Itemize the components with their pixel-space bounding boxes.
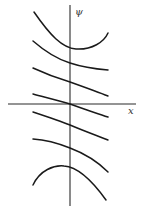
phase-diagram: ψ x — [0, 0, 155, 210]
figure: ψ x — [0, 0, 155, 210]
x-axis-label: x — [128, 105, 134, 116]
curve-1 — [34, 12, 108, 49]
y-axis-label: ψ — [75, 6, 83, 17]
